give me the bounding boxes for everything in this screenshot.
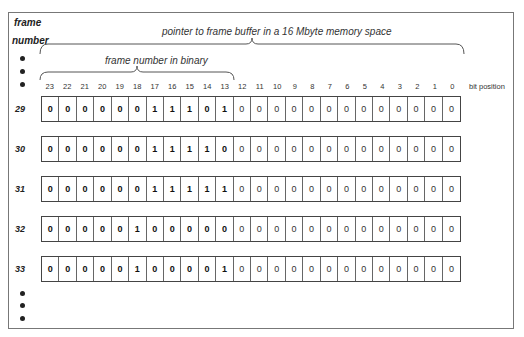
bit-cell: 0 (94, 177, 111, 201)
bit-cell: 0 (373, 137, 390, 161)
bit-register-row: 000000111010000000000000 (41, 96, 461, 122)
bit-cell: 0 (408, 177, 425, 201)
bit-position-number: 17 (146, 82, 164, 91)
bit-cell: 0 (77, 257, 94, 281)
frame-label-line1: frame (14, 17, 41, 28)
bit-cell: 1 (181, 137, 198, 161)
bit-cell: 0 (42, 217, 59, 241)
frame-number-label: 31 (15, 184, 35, 194)
bit-cell: 0 (286, 177, 303, 201)
ellipsis-dot (20, 291, 25, 296)
bit-cell: 0 (112, 217, 129, 241)
bit-cell: 0 (443, 257, 460, 281)
bit-cell: 0 (94, 137, 111, 161)
bit-cell: 0 (129, 137, 146, 161)
bit-cell: 0 (408, 257, 425, 281)
bit-cell: 0 (234, 177, 251, 201)
bit-position-number: 5 (356, 82, 374, 91)
bit-cell: 1 (164, 177, 181, 201)
bit-cell: 0 (181, 257, 198, 281)
bit-position-number: 14 (199, 82, 217, 91)
bit-cell: 0 (321, 217, 338, 241)
bit-cell: 0 (321, 97, 338, 121)
bit-cell: 0 (234, 97, 251, 121)
binary-caption: frame number in binary (105, 55, 208, 66)
bit-cell: 1 (216, 257, 233, 281)
bit-cell: 0 (356, 177, 373, 201)
bit-cell: 0 (268, 137, 285, 161)
bit-register-row: 000000111110000000000000 (41, 176, 461, 202)
bit-cell: 0 (251, 257, 268, 281)
bit-cell: 0 (286, 137, 303, 161)
bit-cell: 0 (59, 217, 76, 241)
bit-cell: 0 (147, 217, 164, 241)
bit-cell: 0 (112, 177, 129, 201)
bit-cell: 0 (251, 217, 268, 241)
bit-cell: 0 (356, 97, 373, 121)
bit-cell: 0 (94, 97, 111, 121)
bit-position-number: 15 (181, 82, 199, 91)
bit-cell: 1 (199, 137, 216, 161)
bit-cell: 1 (147, 97, 164, 121)
bit-cell: 0 (251, 97, 268, 121)
bit-cell: 0 (286, 217, 303, 241)
bit-cell: 0 (268, 97, 285, 121)
bit-cell: 0 (425, 217, 442, 241)
bit-position-label: bit position (469, 82, 505, 91)
bit-cell: 0 (42, 137, 59, 161)
bit-cell: 0 (338, 177, 355, 201)
bit-position-number: 4 (374, 82, 392, 91)
bit-cell: 0 (373, 257, 390, 281)
bit-position-number: 9 (286, 82, 304, 91)
bit-cell: 0 (425, 97, 442, 121)
binary-brace (40, 66, 234, 82)
bit-cell: 0 (390, 257, 407, 281)
bit-cell: 0 (408, 97, 425, 121)
bit-register-row: 000000111100000000000000 (41, 136, 461, 162)
bit-position-number: 11 (251, 82, 269, 91)
bit-cell: 0 (199, 97, 216, 121)
bit-cell: 0 (408, 137, 425, 161)
frame-number-label: 30 (15, 144, 35, 154)
bit-cell: 0 (286, 97, 303, 121)
bit-cell: 1 (147, 177, 164, 201)
bit-cell: 0 (59, 97, 76, 121)
ellipsis-dot (20, 303, 25, 308)
bit-cell: 0 (373, 177, 390, 201)
bit-cell: 0 (216, 137, 233, 161)
bit-cell: 0 (408, 217, 425, 241)
bit-position-number: 21 (76, 82, 94, 91)
bit-position-number: 8 (304, 82, 322, 91)
bit-position-number: 1 (426, 82, 444, 91)
bit-cell: 1 (181, 177, 198, 201)
bit-register-row: 000001000000000000000000 (41, 216, 461, 242)
bit-cell: 1 (181, 97, 198, 121)
bit-cell: 0 (390, 137, 407, 161)
bit-cell: 0 (303, 257, 320, 281)
bit-position-number: 13 (216, 82, 234, 91)
bit-cell: 0 (373, 217, 390, 241)
frame-number-label: 32 (15, 224, 35, 234)
bit-cell: 0 (59, 257, 76, 281)
bit-cell: 0 (77, 137, 94, 161)
ellipsis-dot (20, 69, 25, 74)
bit-cell: 0 (164, 217, 181, 241)
bit-cell: 1 (216, 177, 233, 201)
bit-position-number: 7 (321, 82, 339, 91)
bit-cell: 0 (390, 177, 407, 201)
bit-cell: 0 (425, 177, 442, 201)
bit-cell: 0 (251, 177, 268, 201)
bit-cell: 0 (112, 137, 129, 161)
bit-cell: 0 (425, 137, 442, 161)
bit-register-row: 000001000010000000000000 (41, 256, 461, 282)
frame-number-label: 33 (15, 264, 35, 274)
bit-cell: 0 (390, 217, 407, 241)
bit-position-number: 22 (59, 82, 77, 91)
bit-cell: 0 (129, 97, 146, 121)
bit-cell: 1 (164, 97, 181, 121)
bit-cell: 0 (443, 97, 460, 121)
bit-cell: 0 (268, 217, 285, 241)
bit-cell: 0 (94, 257, 111, 281)
pointer-brace (40, 38, 464, 56)
bit-cell: 0 (321, 177, 338, 201)
